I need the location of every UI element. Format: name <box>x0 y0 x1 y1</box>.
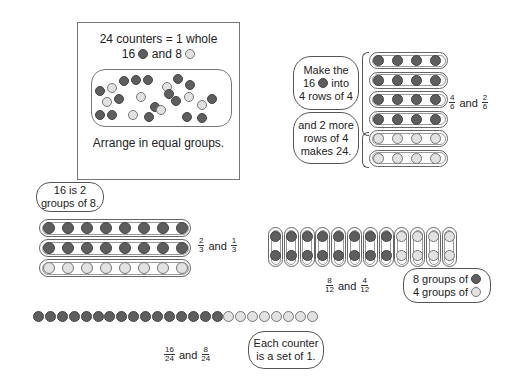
dark-counter <box>212 311 223 322</box>
dark-counter <box>81 222 93 234</box>
dark-counter <box>411 114 422 125</box>
dark-counter-icon <box>471 274 481 284</box>
light-counter <box>271 311 282 322</box>
dark-counter <box>143 75 153 85</box>
dark-counter <box>197 113 207 123</box>
cloud-each-counter: Each counter is a set of 1. <box>248 331 324 369</box>
dark-counter <box>411 94 422 105</box>
light-counter <box>373 153 384 164</box>
light-counter <box>430 153 441 164</box>
light-counter <box>428 231 439 242</box>
fraction-thirds: 23 and 13 <box>198 237 237 254</box>
dark-counter <box>173 74 183 84</box>
dark-counter <box>270 250 281 261</box>
intro-box: 24 counters = 1 whole 16 and 8 Arrange i… <box>77 22 240 180</box>
cloud-two-more-rows: and 2 more rows of 4 makes 24. <box>293 112 359 164</box>
dark-counter <box>43 222 55 234</box>
light-counter <box>138 262 150 274</box>
cloud-make-rows: Make the 16 into 4 rows of 4 <box>293 56 359 110</box>
dark-counter-icon <box>138 49 148 59</box>
light-counter <box>136 92 146 102</box>
dark-counter <box>411 55 422 66</box>
light-counter <box>283 311 294 322</box>
light-counter <box>259 311 270 322</box>
dark-counter <box>119 76 129 86</box>
light-counter <box>430 133 441 144</box>
dark-counter <box>176 311 187 322</box>
light-counter <box>102 97 112 107</box>
dark-counter <box>93 311 104 322</box>
dark-counter <box>119 242 131 254</box>
dark-counter <box>207 94 217 104</box>
dark-counter <box>200 311 211 322</box>
dark-counter <box>157 242 169 254</box>
dark-counter <box>81 311 92 322</box>
fraction-twentyfourths: 1624 and 824 <box>164 346 210 363</box>
intro-line1: 24 counters = 1 whole <box>78 32 239 46</box>
dark-counter <box>157 222 169 234</box>
dark-counter <box>373 94 384 105</box>
dark-counter <box>430 75 441 86</box>
brace-top <box>362 52 369 136</box>
light-counter <box>411 133 422 144</box>
fraction-twelfths: 812 and 412 <box>325 277 369 294</box>
intro-caption: Arrange in equal groups. <box>78 136 239 150</box>
dark-counter <box>430 114 441 125</box>
dark-counter <box>392 55 403 66</box>
light-counter <box>444 231 455 242</box>
dark-counter <box>349 250 360 261</box>
light-counter <box>176 262 188 274</box>
dark-counter <box>392 75 403 86</box>
dark-counter <box>286 250 297 261</box>
dark-counter <box>430 55 441 66</box>
dark-counter <box>365 231 376 242</box>
dark-counter <box>57 311 68 322</box>
light-counter <box>307 311 318 322</box>
dark-counter <box>95 110 105 120</box>
dark-counter <box>411 75 422 86</box>
dark-counter <box>392 114 403 125</box>
dark-counter <box>81 242 93 254</box>
dark-counter <box>176 222 188 234</box>
light-counter <box>128 110 138 120</box>
cloud-groups-of: 8 groups of 4 groups of <box>403 268 491 303</box>
dark-counter <box>62 222 74 234</box>
dark-counter <box>182 112 192 122</box>
dark-counter <box>62 242 74 254</box>
dark-counter <box>373 114 384 125</box>
dark-counter <box>152 311 163 322</box>
light-counter <box>100 262 112 274</box>
dark-counter <box>188 311 199 322</box>
light-counter <box>107 83 117 93</box>
light-counter <box>62 262 74 274</box>
dark-counter <box>373 75 384 86</box>
dark-counter <box>114 94 124 104</box>
dark-counter <box>43 242 55 254</box>
dark-counter <box>373 55 384 66</box>
light-counter <box>119 262 131 274</box>
light-counter <box>156 105 166 115</box>
light-counter <box>392 153 403 164</box>
brace-bottom <box>362 132 369 168</box>
dark-counter <box>69 311 80 322</box>
dark-counter <box>164 311 175 322</box>
light-counter <box>235 311 246 322</box>
dark-counter <box>107 110 117 120</box>
dark-counter <box>128 311 139 322</box>
light-counter <box>247 311 258 322</box>
light-counter <box>197 100 207 110</box>
light-counter <box>444 250 455 261</box>
dark-counter <box>302 231 313 242</box>
dark-counter <box>176 242 188 254</box>
dark-counter <box>286 231 297 242</box>
light-counter <box>373 133 384 144</box>
dark-counter <box>100 242 112 254</box>
fraction-sixths: 46 and 26 <box>449 94 488 111</box>
dark-counter <box>140 311 151 322</box>
scatter-container <box>91 69 232 127</box>
dark-counter-icon <box>318 78 328 88</box>
dark-counter <box>270 231 281 242</box>
light-counter <box>81 262 93 274</box>
light-counter-icon <box>471 287 481 297</box>
dark-counter <box>100 222 112 234</box>
